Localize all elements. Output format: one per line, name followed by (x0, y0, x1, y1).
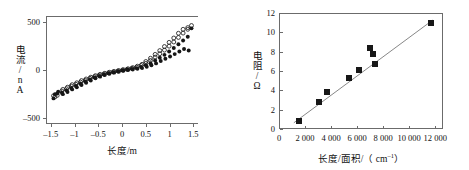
x-tick-label: 12 000 (424, 134, 447, 143)
y-tick-mark (280, 52, 283, 53)
x-axis-title-prefix: 长度/面积/（ cm (318, 154, 387, 164)
x-tick-mark (331, 126, 332, 129)
x-tick-mark (170, 124, 171, 127)
x-axis-title-suffix: ） (394, 154, 404, 164)
x-axis-title-right: 长度/面积/（ cm–1） (318, 150, 404, 165)
y-tick-mark (280, 110, 283, 111)
y-tick-mark (43, 70, 46, 71)
data-point-marker (346, 75, 352, 81)
y-tick-label: –500 (4, 114, 40, 123)
y-tick-mark (280, 71, 283, 72)
x-tick-label: –0.5 (91, 130, 106, 139)
y-axis-title-left: 电流/nA (14, 45, 25, 95)
plot-area-left (46, 16, 198, 124)
x-tick-mark (409, 126, 410, 129)
x-tick-label: 10 000 (397, 134, 420, 143)
x-axis-title-left: 长度/m (107, 146, 137, 157)
y-tick-mark (43, 22, 46, 23)
x-tick-label: 1 (167, 130, 171, 139)
x-tick-label: –1 (70, 130, 79, 139)
y-tick-mark (280, 129, 283, 130)
y-tick-label: 12 (249, 9, 275, 18)
x-tick-label: 1.5 (188, 130, 199, 139)
y-tick-label: 10 (249, 28, 275, 37)
x-tick-label: 8 000 (374, 134, 393, 143)
scatter-markers-left (47, 17, 198, 123)
plot-area-right (279, 13, 443, 129)
x-tick-label: 0.5 (140, 130, 151, 139)
x-tick-label: –1.5 (43, 130, 58, 139)
y-tick-mark (280, 13, 283, 14)
x-tick-mark (146, 124, 147, 127)
y-tick-mark (280, 32, 283, 33)
x-tick-label: 0 (277, 134, 281, 143)
x-tick-label: 2 000 (295, 134, 314, 143)
figure-root: –1.5–1–0.500.511.5 –5000500 长度/m 电流/nA 0… (0, 0, 469, 170)
x-tick-mark (305, 126, 306, 129)
data-point-marker (324, 89, 330, 95)
y-axis-title-right: 电阻/Ω (251, 51, 262, 91)
data-point-marker (356, 67, 362, 73)
data-point-marker (370, 51, 376, 57)
chart-panel-left: –1.5–1–0.500.511.5 –5000500 长度/m 电流/nA (0, 0, 235, 170)
x-tick-mark (193, 124, 194, 127)
y-tick-mark (280, 90, 283, 91)
x-tick-mark (435, 126, 436, 129)
data-point-marker (316, 99, 322, 105)
x-tick-mark (51, 124, 52, 127)
x-tick-mark (383, 126, 384, 129)
x-tick-label: 6 000 (348, 134, 367, 143)
data-point-marker (296, 118, 302, 124)
y-tick-label: 0 (249, 125, 275, 134)
chart-panel-right: 02 0004 0006 0008 00010 00012 000 024681… (235, 0, 469, 170)
x-tick-label: 0 (120, 130, 124, 139)
data-point-marker (428, 20, 434, 26)
data-point-marker (372, 61, 378, 67)
x-tick-mark (357, 126, 358, 129)
x-tick-label: 4 000 (322, 134, 341, 143)
y-tick-label: 2 (249, 105, 275, 114)
x-tick-mark (98, 124, 99, 127)
x-tick-mark (75, 124, 76, 127)
y-tick-mark (43, 118, 46, 119)
y-tick-label: 500 (4, 17, 40, 26)
x-tick-mark (122, 124, 123, 127)
